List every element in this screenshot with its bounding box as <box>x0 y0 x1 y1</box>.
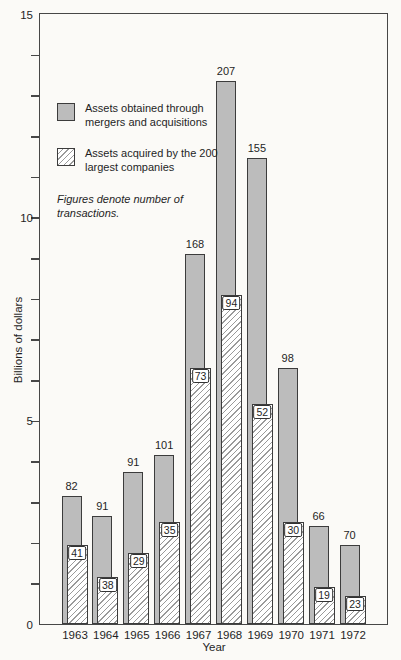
transaction-count-200-largest-1971: 19 <box>315 588 333 602</box>
bar-200-largest-1966 <box>159 522 180 624</box>
y-tick-label-15: 15 <box>0 8 33 22</box>
legend-item-mergers: Assets obtained through mergers and acqu… <box>57 102 237 129</box>
y-tick-9 <box>31 258 39 260</box>
legend-swatch-solid-icon <box>57 103 75 121</box>
transaction-count-mergers-1969: 155 <box>248 142 266 155</box>
transaction-count-200-largest-1970: 30 <box>284 523 302 537</box>
bar-200-largest-1970 <box>283 522 304 624</box>
transaction-count-mergers-1970: 98 <box>282 352 294 365</box>
transaction-count-200-largest-1964: 38 <box>99 578 117 592</box>
plot-area: Assets obtained through mergers and acqu… <box>39 13 388 625</box>
transaction-count-200-largest-1963: 41 <box>68 546 86 560</box>
transaction-count-mergers-1971: 66 <box>312 510 324 523</box>
transaction-count-200-largest-1965: 29 <box>130 554 148 568</box>
transaction-count-mergers-1972: 70 <box>343 529 355 542</box>
y-tick-label-0: 0 <box>0 618 33 632</box>
legend: Assets obtained through mergers and acqu… <box>57 102 237 220</box>
transaction-count-mergers-1966: 101 <box>155 439 173 452</box>
transaction-count-200-largest-1969: 52 <box>253 405 271 419</box>
y-tick-label-5: 5 <box>0 414 33 428</box>
y-axis-title: Billions of dollars <box>12 297 24 383</box>
transaction-count-200-largest-1967: 73 <box>192 369 210 383</box>
y-tick-6 <box>31 380 39 382</box>
y-tick-label-10: 10 <box>0 211 33 225</box>
legend-swatch-hatched-icon <box>57 148 75 166</box>
y-tick-1 <box>31 583 39 585</box>
figure-note: Figures denote number of transactions. <box>57 192 189 220</box>
transaction-count-200-largest-1968: 94 <box>223 296 241 310</box>
y-tick-13 <box>31 95 39 97</box>
bar-200-largest-1969 <box>252 404 273 624</box>
transaction-count-200-largest-1972: 23 <box>346 597 364 611</box>
transaction-count-mergers-1964: 91 <box>96 500 108 513</box>
transaction-count-200-largest-1966: 35 <box>161 523 179 537</box>
bar-200-largest-1968 <box>221 295 242 624</box>
bar-200-largest-1967 <box>190 368 211 624</box>
legend-label-200-largest: Assets acquired by the 200 largest compa… <box>85 147 225 174</box>
y-tick-11 <box>31 177 39 179</box>
y-tick-8 <box>31 299 39 301</box>
y-tick-3 <box>31 502 39 504</box>
y-tick-2 <box>31 543 39 545</box>
y-tick-4 <box>31 461 39 463</box>
y-tick-12 <box>31 136 39 138</box>
merger-assets-bar-chart: Assets obtained through mergers and acqu… <box>0 0 401 660</box>
transaction-count-mergers-1965: 91 <box>127 456 139 469</box>
transaction-count-mergers-1968: 207 <box>217 65 235 78</box>
legend-item-200-largest: Assets acquired by the 200 largest compa… <box>57 147 237 174</box>
x-axis-title: Year <box>202 641 225 653</box>
transaction-count-mergers-1963: 82 <box>65 480 77 493</box>
transaction-count-mergers-1967: 168 <box>186 238 204 251</box>
legend-label-mergers: Assets obtained through mergers and acqu… <box>85 102 225 129</box>
x-tick-label-1972: 1972 <box>331 629 375 641</box>
y-tick-14 <box>31 55 39 57</box>
y-tick-7 <box>31 339 39 341</box>
